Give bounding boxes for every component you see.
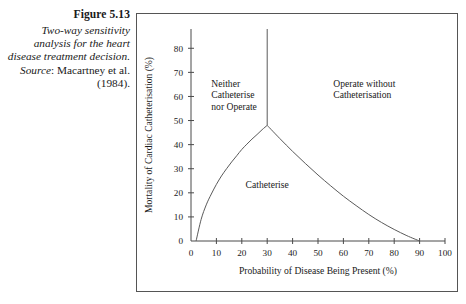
figure-container: Figure 5.13 Two-way sensitivity analysis… — [0, 0, 466, 304]
chart-tick-labels: 010203040506070809010001020304050607080 — [174, 44, 452, 258]
y-axis-title: Mortality of Cardiac Catheterisation (%) — [143, 57, 155, 213]
figure-caption-text: Two-way sensitivity analysis for the hea… — [4, 24, 130, 64]
y-tick-label: 80 — [174, 44, 184, 54]
x-tick-label: 90 — [415, 248, 425, 258]
chart-frame: 010203040506070809010001020304050607080 … — [136, 13, 458, 292]
x-axis-title: Probability of Disease Being Present (%) — [239, 265, 397, 277]
figure-number: Figure 5.13 — [4, 8, 130, 21]
region-label: NeitherCatheterisenor Operate — [211, 78, 257, 112]
x-tick-label: 0 — [189, 248, 194, 258]
x-tick-label: 80 — [390, 248, 400, 258]
y-tick-label: 10 — [174, 212, 184, 222]
y-tick-label: 0 — [178, 236, 183, 246]
y-tick-label: 50 — [174, 116, 184, 126]
region-label: Operate withoutCatheterisation — [333, 78, 395, 101]
y-tick-label: 60 — [174, 92, 184, 102]
chart-axes — [191, 29, 445, 241]
x-tick-label: 30 — [263, 248, 273, 258]
x-tick-label: 50 — [313, 248, 323, 258]
y-tick-label: 70 — [174, 68, 184, 78]
x-tick-label: 70 — [364, 248, 374, 258]
source-label: Source — [20, 64, 51, 76]
source-reference: Macartney et al. (1984). — [57, 64, 130, 89]
chart-region-labels: NeitherCatheterisenor OperateOperate wit… — [211, 78, 395, 190]
sensitivity-analysis-chart: 010203040506070809010001020304050607080 … — [137, 14, 459, 293]
y-tick-label: 20 — [174, 188, 184, 198]
y-tick-label: 40 — [174, 140, 184, 150]
chart-boundary-curves — [196, 29, 420, 241]
x-tick-label: 10 — [212, 248, 222, 258]
region-label: Catheterise — [246, 179, 289, 190]
y-tick-label: 30 — [174, 164, 184, 174]
figure-caption: Figure 5.13 Two-way sensitivity analysis… — [4, 8, 130, 90]
x-tick-label: 20 — [237, 248, 247, 258]
curve-falling-boundary — [267, 125, 419, 241]
figure-source-line: Source: Macartney et al. (1984). — [4, 64, 130, 90]
x-tick-label: 100 — [438, 248, 452, 258]
x-tick-label: 60 — [339, 248, 349, 258]
x-tick-label: 40 — [288, 248, 298, 258]
